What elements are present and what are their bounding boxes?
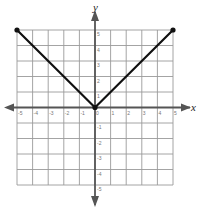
y-tick-label: -2 [97, 140, 102, 146]
x-tick-label: -5 [18, 110, 23, 116]
x-tick-label: -1 [80, 110, 85, 116]
y-tick-label: -3 [97, 155, 102, 161]
point-dot [14, 27, 19, 32]
point-dot [92, 105, 97, 110]
x-axis-label: x [190, 101, 196, 113]
x-tick-label: -3 [49, 110, 54, 116]
y-axis-label: y [92, 1, 98, 13]
y-tick-label: 5 [97, 31, 100, 37]
x-tick-label: 4 [158, 110, 161, 116]
y-axis-down-arrow-icon [91, 196, 99, 207]
x-tick-label: 3 [143, 110, 146, 116]
x-tick-label: 0 [96, 110, 99, 116]
y-tick-label: -4 [97, 171, 102, 177]
x-tick-label: 2 [127, 110, 130, 116]
y-tick-label: 3 [97, 62, 100, 68]
y-tick-label: -1 [97, 124, 102, 130]
x-tick-label: 1 [112, 110, 115, 116]
y-tick-label: -5 [97, 186, 102, 192]
absolute-value-graph: -5-4-3-2-101234554321-1-2-3-4-5 x y [0, 0, 201, 213]
y-tick-label: 2 [97, 78, 100, 84]
point-dot [170, 27, 175, 32]
x-tick-label: 5 [174, 110, 177, 116]
x-axis-left-arrow-icon [4, 104, 14, 112]
y-tick-label: 1 [97, 93, 100, 99]
y-tick-label: 4 [97, 47, 100, 53]
x-tick-label: -2 [65, 110, 70, 116]
x-axis-right-arrow-icon [181, 104, 191, 112]
x-tick-label: -4 [34, 110, 39, 116]
